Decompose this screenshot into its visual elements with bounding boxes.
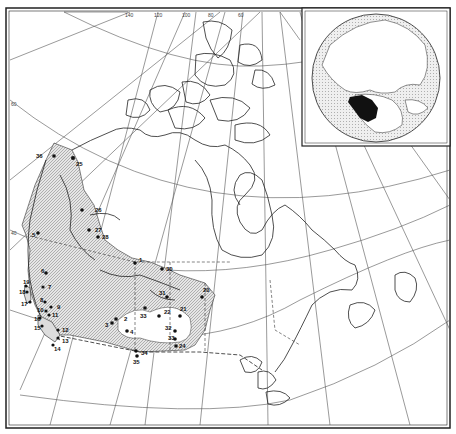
svg-text:33: 33 — [168, 335, 175, 341]
svg-text:140: 140 — [125, 12, 134, 18]
svg-text:32: 32 — [165, 325, 172, 331]
svg-text:35: 35 — [133, 359, 140, 365]
svg-text:100: 100 — [182, 12, 191, 18]
svg-text:11: 11 — [52, 312, 59, 318]
svg-text:14: 14 — [54, 346, 61, 352]
svg-text:33: 33 — [140, 313, 147, 319]
svg-text:12: 12 — [62, 327, 69, 333]
svg-text:15: 15 — [34, 325, 41, 331]
svg-text:16: 16 — [34, 316, 41, 322]
svg-text:60: 60 — [238, 12, 244, 18]
svg-text:17: 17 — [21, 301, 28, 307]
svg-text:20: 20 — [203, 287, 210, 293]
svg-text:24: 24 — [179, 343, 186, 349]
svg-text:18: 18 — [19, 289, 26, 295]
svg-text:40: 40 — [11, 230, 17, 236]
range-map: 140 120 100 80 60 60 40 — [0, 0, 456, 434]
svg-text:30: 30 — [166, 266, 173, 272]
svg-text:10: 10 — [37, 307, 44, 313]
svg-text:27: 27 — [95, 227, 102, 233]
svg-text:60: 60 — [11, 101, 17, 107]
svg-text:25: 25 — [76, 161, 83, 167]
svg-text:34: 34 — [141, 350, 148, 356]
svg-text:120: 120 — [154, 12, 163, 18]
svg-text:19: 19 — [23, 279, 30, 285]
svg-text:21: 21 — [180, 306, 187, 312]
svg-text:26: 26 — [95, 207, 102, 213]
svg-text:13: 13 — [62, 338, 69, 344]
svg-text:80: 80 — [208, 12, 214, 18]
svg-text:28: 28 — [102, 234, 109, 240]
inset-globe — [302, 8, 450, 146]
svg-text:31: 31 — [159, 290, 166, 296]
svg-text:22: 22 — [164, 309, 171, 315]
svg-text:36: 36 — [36, 153, 43, 159]
prairie-unshaded — [118, 307, 191, 343]
